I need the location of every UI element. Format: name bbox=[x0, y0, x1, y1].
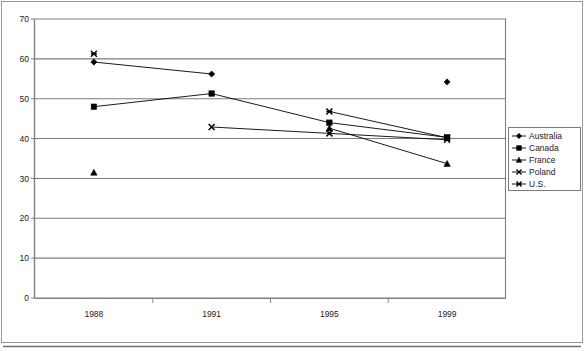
chart-legend: AustraliaCanadaFrancePolandU.S. bbox=[509, 128, 581, 191]
x-tick-label: 1991 bbox=[202, 309, 221, 319]
data-point-marker-square bbox=[209, 91, 214, 96]
y-tick-label: 50 bbox=[20, 94, 30, 104]
line-chart-svg: 706050403020100 1988199119951999 Austral… bbox=[0, 0, 584, 351]
x-tick-label: 1988 bbox=[84, 309, 103, 319]
legend-label: Australia bbox=[529, 131, 562, 141]
x-tick-label: 1999 bbox=[438, 309, 457, 319]
data-point-marker-square bbox=[91, 104, 96, 109]
y-tick-label: 20 bbox=[20, 213, 30, 223]
chart-container: 706050403020100 1988199119951999 Austral… bbox=[0, 0, 584, 351]
y-tick-label: 70 bbox=[20, 14, 30, 24]
legend-label: Poland bbox=[529, 167, 556, 177]
y-tick-label: 60 bbox=[20, 54, 30, 64]
legend-label: France bbox=[529, 155, 556, 165]
legend-label: U.S. bbox=[529, 179, 546, 189]
y-tick-label: 0 bbox=[24, 293, 29, 303]
y-tick-label: 40 bbox=[20, 134, 30, 144]
x-tick-label: 1995 bbox=[320, 309, 339, 319]
y-tick-label: 30 bbox=[20, 174, 30, 184]
y-tick-label: 10 bbox=[20, 253, 30, 263]
legend-label: Canada bbox=[529, 143, 559, 153]
data-point-marker-square bbox=[517, 146, 522, 151]
